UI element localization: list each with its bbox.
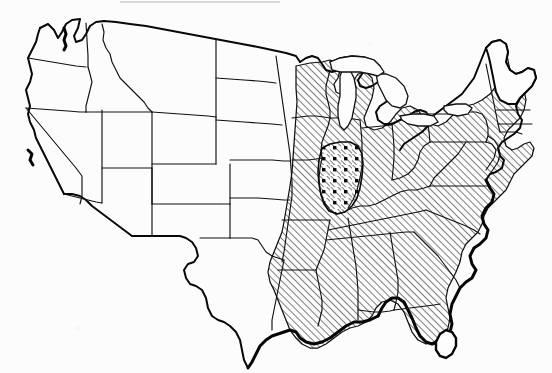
puget-sound-detail <box>64 28 66 50</box>
lake-ontario <box>444 104 472 116</box>
map-figure <box>0 0 552 373</box>
us-map-svg <box>0 0 552 373</box>
florida-southern-tip-unshaded <box>436 330 456 358</box>
